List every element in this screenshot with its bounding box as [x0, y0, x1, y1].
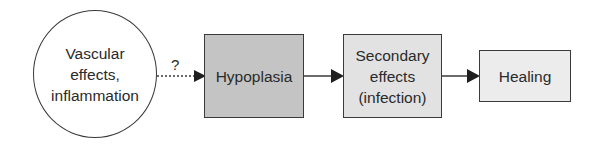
node-healing: Healing — [479, 50, 571, 102]
node-vascular-effects: Vascular effects, inflammation — [33, 10, 157, 138]
node-label: Secondary effects (infection) — [355, 45, 429, 108]
node-label: Vascular effects, inflammation — [51, 43, 139, 106]
edge-label-uncertain: ? — [171, 56, 179, 73]
node-hypoplasia: Hypoplasia — [204, 34, 304, 118]
node-label: Healing — [499, 66, 552, 87]
node-secondary-effects: Secondary effects (infection) — [343, 34, 442, 118]
node-label: Hypoplasia — [216, 66, 293, 87]
